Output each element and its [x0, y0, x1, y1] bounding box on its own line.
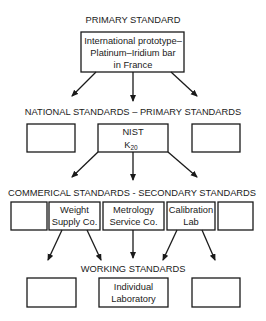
box-empty [11, 202, 47, 230]
arrow [48, 230, 62, 260]
arrow [72, 72, 96, 96]
box-text-line: in France [114, 60, 153, 70]
box-text-line: Weight [60, 205, 89, 215]
arrow [72, 152, 98, 177]
box-metrology-service: Metrology Service Co. [103, 202, 164, 230]
k-subscript: 20 [130, 144, 138, 151]
level-label-primary: PRIMARY STANDARD [85, 15, 180, 25]
arrow [171, 72, 197, 96]
arrow [202, 230, 215, 260]
box-weight-supply: Weight Supply Co. [49, 202, 100, 230]
box-text-line: Platinum–Iridium bar [90, 48, 175, 58]
box-text-line: Supply Co. [52, 217, 97, 227]
traceability-diagram: PRIMARY STANDARD International prototype… [0, 0, 266, 321]
arrow [163, 230, 177, 260]
box-empty [27, 124, 75, 152]
box-text-line: International prototype– [84, 36, 183, 46]
arrow [168, 152, 197, 177]
box-nist: NIST K20 [98, 124, 168, 152]
box-international-prototype: International prototype– Platinum–Iridiu… [81, 32, 184, 72]
level-label-working: WORKING STANDARDS [81, 264, 186, 274]
box-empty [192, 278, 240, 307]
box-text-line: Laboratory [111, 294, 156, 304]
box-individual-laboratory: Individual Laboratory [99, 278, 168, 307]
level-label-national: NATIONAL STANDARDS – PRIMARY STANDARDS [25, 107, 241, 117]
box-text-line: Individual [114, 282, 153, 292]
arrow [87, 230, 101, 260]
box-text-line: Calibration [169, 205, 213, 215]
box-calibration-lab: Calibration Lab [167, 202, 215, 230]
box-empty [218, 202, 253, 230]
box-text-line: NIST [122, 127, 143, 137]
box-text-line: Metrology [113, 205, 154, 215]
box-empty [27, 278, 76, 307]
box-text-line: Service Co. [109, 217, 157, 227]
box-text-line: Lab [183, 217, 199, 227]
level-label-commercial: COMMERICAL STANDARDS - SECONDARY STANDAR… [8, 188, 256, 198]
box-empty [192, 124, 240, 152]
